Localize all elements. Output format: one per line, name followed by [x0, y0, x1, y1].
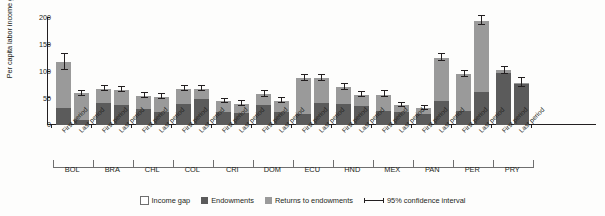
legend-item[interactable]: Income gap [140, 196, 191, 205]
y-tick-mark [47, 124, 50, 125]
error-bar-cap-lower [518, 86, 525, 87]
error-bar-cap-lower [478, 24, 485, 25]
error-bar-cap-lower [381, 96, 388, 97]
error-bar-cap-upper [398, 102, 405, 103]
error-bar-cap-lower [158, 98, 165, 99]
error-bar-cap-lower [301, 80, 308, 81]
legend-item[interactable]: 95% confidence interval [364, 196, 465, 205]
error-bar-cap-upper [78, 90, 85, 91]
y-tick-mark [47, 44, 50, 45]
confidence-interval-swatch [364, 197, 384, 204]
error-bar-cap-lower [438, 60, 445, 61]
error-bar-cap-upper [301, 74, 308, 75]
chart-figure: Per capita labor income gap (%) 05010015… [0, 0, 605, 216]
error-bar-cap-lower [141, 97, 148, 98]
error-bar-cap-upper [381, 90, 388, 91]
error-bar-cap-upper [341, 83, 348, 84]
country-label-pry: PRY [486, 166, 539, 174]
error-bar-cap-lower [358, 96, 365, 97]
bar-segment-returns-to-endowments[interactable] [434, 58, 449, 101]
error-bar-cap-lower [501, 73, 508, 74]
endowments-swatch [201, 197, 208, 204]
y-tick-mark [47, 17, 50, 18]
error-bar-cap-lower [101, 90, 108, 91]
error-bar-cap-lower [261, 96, 268, 97]
error-bar-cap-upper [61, 53, 68, 54]
bar-segment-returns-to-endowments[interactable] [176, 89, 191, 104]
y-tick-mark [47, 97, 50, 98]
error-bar-cap-upper [438, 53, 445, 54]
error-bar-cap-lower [278, 102, 285, 103]
error-bar-cap-lower [341, 89, 348, 90]
error-bar-cap-upper [101, 85, 108, 86]
legend-label: Income gap [152, 196, 191, 205]
error-bar-cap-lower [318, 80, 325, 81]
bar-segment-returns-to-endowments[interactable] [314, 78, 329, 103]
x-axis-country-labels: BOLBRACHLCOLCRIDOMECUHNDMEXPANPERPRY [47, 160, 602, 182]
error-bar-cap-lower [78, 95, 85, 96]
bar[interactable] [56, 62, 71, 125]
error-bar-cap-upper [461, 70, 468, 71]
chart-legend: Income gapEndowmentsReturns to endowment… [0, 192, 605, 208]
error-bar-cap-lower [61, 69, 68, 70]
error-bar-cap-upper [358, 91, 365, 92]
error-bar-cap-upper [158, 93, 165, 94]
error-bar-cap-upper [198, 85, 205, 86]
bar-segment-returns-to-endowments[interactable] [456, 74, 471, 110]
error-bar-cap-lower [198, 90, 205, 91]
error-bar-cap-upper [261, 90, 268, 91]
error-bar-cap-upper [478, 15, 485, 16]
legend-label: Endowments [211, 196, 254, 205]
error-bar-cap-upper [518, 77, 525, 78]
bar-segment-returns-to-endowments[interactable] [114, 90, 129, 106]
error-bar-cap-upper [118, 86, 125, 87]
error-bar-cap-lower [461, 76, 468, 77]
legend-label: Returns to endowments [275, 196, 353, 205]
error-bar-cap-upper [318, 74, 325, 75]
error-bar-cap-lower [181, 90, 188, 91]
error-bar-cap-upper [238, 100, 245, 101]
error-bar-cap-upper [501, 66, 508, 67]
y-tick-mark [47, 71, 50, 72]
y-axis-title: Per capita labor income gap (%) [5, 0, 19, 87]
error-bar [64, 54, 65, 70]
bar-segment-returns-to-endowments[interactable] [474, 21, 489, 92]
error-bar-cap-lower [118, 91, 125, 92]
legend-item[interactable]: Endowments [201, 196, 254, 205]
error-bar-cap-upper [181, 85, 188, 86]
error-bar-cap-upper [221, 98, 228, 99]
legend-label: 95% confidence interval [387, 196, 465, 205]
error-bar-cap-lower [221, 102, 228, 103]
error-bar-cap-upper [141, 92, 148, 93]
income-gap-swatch [140, 196, 149, 205]
error-bar-cap-upper [278, 97, 285, 98]
legend-item[interactable]: Returns to endowments [265, 196, 353, 205]
returns-swatch [265, 197, 272, 204]
